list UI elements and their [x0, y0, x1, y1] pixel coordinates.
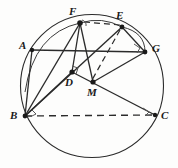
point-label-a: A [19, 40, 26, 51]
right-angle-mark-b [32, 110, 36, 116]
vertex-dot-d [69, 69, 74, 74]
point-label-e: E [116, 10, 123, 21]
point-label-g: G [152, 43, 160, 54]
point-label-b: B [10, 110, 17, 121]
point-label-f: F [69, 6, 76, 17]
segment-f-m [80, 23, 93, 82]
segment-b-c-dashed [25, 115, 155, 116]
vertex-dot-f [77, 20, 83, 26]
vertex-dot-e [120, 25, 125, 30]
geometry-canvas [0, 0, 178, 168]
point-label-m: M [87, 87, 97, 98]
vertex-dot-m [90, 79, 95, 84]
segment-a-g [32, 50, 145, 52]
vertex-dot-a [30, 48, 34, 52]
segment-e-m-dashed [92, 30, 120, 80]
vertex-dot-b [23, 114, 28, 119]
vertex-dot-c [153, 113, 157, 117]
vertex-dot-g [143, 50, 148, 55]
point-label-d: D [65, 77, 73, 88]
segment-g-m [93, 52, 145, 82]
segment-d-c [72, 72, 155, 115]
geometry-figure: A B C D E F G M [0, 0, 178, 168]
point-label-c: C [161, 110, 168, 121]
